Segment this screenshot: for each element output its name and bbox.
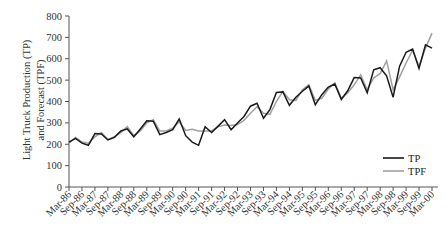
legend: TP TPF	[383, 153, 426, 177]
y-axis-title-line-1: Light Truck Production (TP)	[21, 39, 33, 160]
line-chart: Light Truck Production (TP) and Forecast…	[0, 0, 446, 237]
x-axis: Mar-86Sep-86Mar-87Sep-87Mar-88Sep-88Mar-…	[44, 187, 438, 219]
legend-label-tpf: TPF	[408, 166, 426, 177]
y-tick-label: 100	[46, 160, 62, 171]
y-tick-label: 600	[46, 53, 62, 64]
series-line-tpf	[69, 33, 432, 143]
legend-label-tp: TP	[408, 153, 420, 164]
y-axis-title: Light Truck Production (TP) and Forecast…	[21, 39, 47, 160]
y-tick-label: 700	[46, 32, 62, 43]
y-tick-label: 200	[46, 139, 62, 150]
y-tick-label: 300	[46, 117, 62, 128]
y-tick-label: 500	[46, 75, 62, 86]
y-axis: 0100200300400500600700800	[46, 11, 69, 193]
y-tick-label: 800	[46, 11, 62, 22]
y-tick-label: 400	[46, 96, 62, 107]
y-tick-label: 0	[57, 182, 62, 193]
y-axis-title-line-2: and Forecast (TPF)	[35, 59, 47, 141]
series-lines	[69, 33, 432, 145]
series-line-tp	[69, 45, 432, 145]
